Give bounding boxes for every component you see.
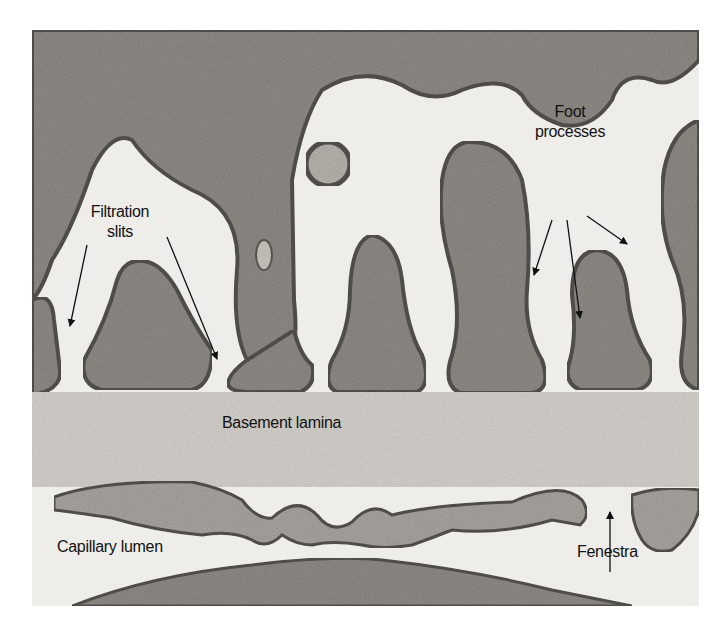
label-foot-processes: Foot processes	[520, 102, 620, 142]
label-capillary-lumen: Capillary lumen	[57, 537, 163, 557]
vesicle	[256, 240, 272, 270]
label-fenestra: Fenestra	[577, 542, 638, 562]
label-filtration-slits-line1: Filtration	[75, 202, 165, 222]
label-filtration-slits-line2: slits	[75, 222, 165, 242]
basement-lamina	[32, 392, 699, 487]
label-basement-lamina: Basement lamina	[222, 413, 341, 433]
label-filtration-slits: Filtration slits	[75, 202, 165, 242]
label-foot-processes-line1: Foot	[520, 102, 620, 122]
process-cross-section	[306, 142, 350, 186]
label-foot-processes-line2: processes	[520, 122, 620, 142]
